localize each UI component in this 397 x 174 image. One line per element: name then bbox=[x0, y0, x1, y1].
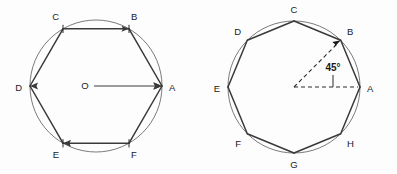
figure-canvas: O A B C D E F bbox=[0, 0, 397, 174]
vertex-label-D-right: D bbox=[234, 26, 241, 37]
vertex-label-F-left: F bbox=[131, 149, 137, 160]
hexagon-edge-DE bbox=[30, 86, 63, 143]
angle-label-45deg: 45° bbox=[325, 62, 340, 73]
vertex-label-C-left: C bbox=[52, 11, 59, 22]
hexagon-edge-FA bbox=[129, 86, 162, 143]
octagon-edge-GH bbox=[294, 134, 341, 153]
hexagon-edge-CD bbox=[30, 29, 63, 86]
panel-right-octagon: 45° A B C D E F G H bbox=[214, 4, 374, 170]
octagon-edge-BC bbox=[294, 21, 341, 40]
vertex-label-D-left: D bbox=[15, 82, 22, 93]
panel-left-hexagon: O A B C D E F bbox=[15, 11, 176, 160]
vertex-label-B-right: B bbox=[347, 26, 353, 37]
vertex-label-F-right: F bbox=[235, 138, 241, 149]
geometry-figure: O A B C D E F bbox=[0, 0, 397, 174]
octagon-edge-CD bbox=[247, 21, 294, 40]
vertex-label-H-right: H bbox=[347, 138, 354, 149]
vertex-label-A-right: A bbox=[367, 83, 374, 94]
hexagon-edge-AB bbox=[129, 29, 162, 86]
vertex-label-E-right: E bbox=[214, 83, 220, 94]
vertex-label-C-right: C bbox=[291, 4, 298, 15]
arrowhead-dashed-ray-to-B bbox=[332, 40, 340, 47]
octagon-edge-EF bbox=[228, 87, 247, 134]
vertex-label-G-right: G bbox=[290, 159, 297, 170]
octagon-edge-FG bbox=[247, 134, 294, 153]
vertex-label-A-left: A bbox=[169, 82, 176, 93]
octagon-edge-HA bbox=[341, 87, 360, 134]
octagon-edge-AB bbox=[341, 40, 360, 87]
vertex-label-B-left: B bbox=[131, 11, 137, 22]
octagon-edge-DE bbox=[228, 40, 247, 87]
center-label-O: O bbox=[81, 80, 88, 91]
vertex-label-E-left: E bbox=[53, 149, 59, 160]
